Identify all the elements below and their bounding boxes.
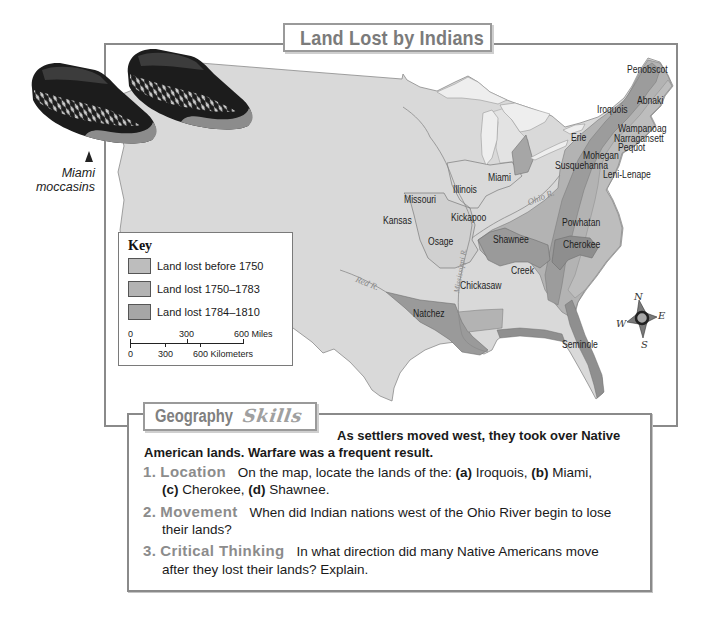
scale-km-300: 300 [158,349,173,359]
map-label-erie: Erie [571,132,586,144]
compass-rose-icon: N E S W [616,291,666,350]
map-label-pequot: Pequot [618,142,645,154]
question-3-title: Critical Thinking [160,542,284,559]
question-2-title: Movement [160,503,237,520]
map-label-iroquois: Iroquois [597,104,628,116]
scale-tick [165,343,166,347]
compass-ring [636,312,648,324]
question-1-name-c: Cherokee, [182,482,244,497]
question-1-name-a: Iroquois, [476,465,528,480]
key-label-before-1750: Land lost before 1750 [157,260,263,273]
map-label-missouri: Missouri [404,194,436,206]
scale-tick [200,343,201,347]
map-label-susquehanna: Susquehanna [555,160,608,172]
question-1-letter-c: (c) [162,482,179,497]
map-title: Land Lost by Indians [300,25,484,50]
question-1-name-b: Miami, [552,465,592,480]
question-3-text-line2: after they lost their lands? Explain. [162,561,368,579]
map-label-powhatan: Powhatan [562,217,600,229]
scale-tick [187,339,188,343]
question-1-continuation: (c) Cherokee, (d) Shawnee. [162,481,329,499]
map-label-illinois: Illinois [453,184,477,196]
question-3-number: 3. [143,542,156,559]
compass-w: W [616,318,627,329]
map-label-seminole: Seminole [562,339,598,351]
scale-miles-300: 300 [179,329,194,339]
question-1-label: 1.Location [143,463,226,480]
map-label-penobscot: Penobscot [627,64,668,76]
key-label-1784-1810: Land lost 1784–1810 [157,306,260,319]
skills-intro-line2: American lands. Warfare was a frequent r… [144,444,433,462]
compass-e: E [657,310,666,321]
question-1: 1.Location On the map, locate the lands … [143,463,592,482]
question-3-label: 3.Critical Thinking [143,542,285,559]
map-label-miami: Miami [488,172,511,184]
question-2-number: 2. [143,503,156,520]
map-label-cherokee: Cherokee [563,239,600,251]
question-2-text-line2: their lands? [162,521,232,539]
scale-tick [243,339,244,343]
scale-miles-0: 0 [128,329,133,339]
key-heading: Key [128,238,152,254]
scale-km-600: 600 Kilometers [193,349,253,359]
map-label-abnaki: Abnaki [637,95,663,107]
question-1-letter-a: (a) [455,465,472,480]
scale-km-0: 0 [128,349,133,359]
map-label-kickapoo: Kickapoo [451,212,486,224]
map-label-osage: Osage [428,236,453,248]
key-swatch-1784-1810 [128,304,151,320]
question-1-title: Location [160,463,226,480]
key-label-1750-1783: Land lost 1750–1783 [157,283,260,296]
caption-line1: Miami [62,166,95,180]
question-1-letter-b: (b) [531,465,548,480]
skills-intro-line1: As settlers moved west, they took over N… [337,427,620,445]
map-label-creek: Creek [511,265,534,277]
question-1-name-d: Shawnee. [269,482,329,497]
question-3: 3.Critical Thinking In what direction di… [143,542,599,561]
caption-arrow-icon [85,151,93,162]
key-swatch-before-1750 [128,258,151,274]
question-1-prompt: On the map, locate the lands of the: [238,465,452,480]
key-swatch-1750-1783 [128,281,151,297]
map-label-kansas: Kansas [383,215,412,227]
map-key: Key Land lost before 1750 Land lost 1750… [118,232,293,366]
map-label-chickasaw: Chickasaw [460,280,502,292]
question-2: 2.Movement When did Indian nations west … [143,503,611,522]
caption-line2: moccasins [36,180,95,194]
geography-skills-tab: Geography Skills [143,402,317,431]
geography-skills-script: Skills [241,404,303,428]
map-label-natchez: Natchez [413,308,445,320]
map-label-shawnee: Shawnee [493,234,529,246]
question-2-text-line1: When did Indian nations west of the Ohio… [249,505,611,520]
map-title-box: Land Lost by Indians [283,23,492,52]
map-label-leni-lenape: Leni-Lenape [603,169,651,181]
question-1-letter-d: (d) [248,482,265,497]
scale-tick [130,339,131,348]
scale-miles-600: 600 Miles [234,329,273,339]
question-2-label: 2.Movement [143,503,238,520]
compass-n: N [633,291,644,302]
question-1-number: 1. [143,463,156,480]
compass-s: S [641,339,648,350]
question-3-text-line1: In what direction did many Native Americ… [296,544,598,559]
geography-skills-label: Geography [155,405,233,427]
scale-bar [130,343,244,344]
